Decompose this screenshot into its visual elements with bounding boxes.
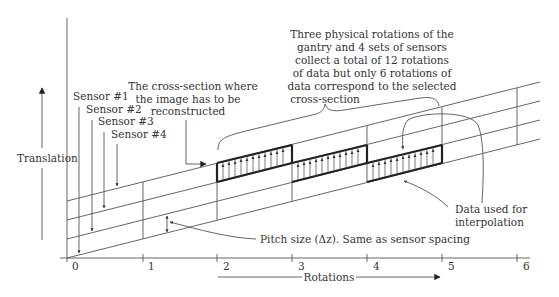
pitch-pointer [170, 222, 256, 239]
tick-label-4: 4 [373, 260, 380, 272]
sensor-3-label: Sensor #3 [98, 115, 154, 127]
interpolation-curved-arrow-bottom [404, 181, 448, 207]
cross-section-arrow [186, 120, 206, 164]
sensor-4-label: Sensor #4 [111, 128, 167, 140]
rotations-note-line-3: collect a total of 12 rotations [295, 54, 449, 66]
cross-section-data [217, 145, 442, 182]
x-axis-label: Rotations [304, 271, 355, 283]
sensor-1-label: Sensor #1 [73, 90, 129, 102]
y-axis-label: Translation [17, 152, 78, 164]
cross-section-text-line-2: the image has to be [136, 93, 241, 105]
pitch-text: Pitch size (Δz). Same as sensor spacing [260, 233, 470, 245]
rotations-note-line-1: Three physical rotations of the [290, 28, 454, 40]
pitch-annotation: Pitch size (Δz). Same as sensor spacing [167, 216, 470, 245]
interpolation-text-line-1: Data used for [455, 203, 528, 215]
interpolation-arrows [222, 147, 435, 180]
rotations-note-line-6: cross-section [290, 93, 360, 105]
rotations-note-line-2: gantry and 4 sets of sensors [297, 41, 447, 53]
cross-section-text-line-1: The cross-section where [128, 80, 258, 92]
rotations-note-line-5: data correspond to the selected [287, 80, 456, 92]
tick-label-0: 0 [72, 260, 79, 272]
tick-label-6: 6 [523, 260, 530, 272]
tick-label-2: 2 [223, 260, 230, 272]
rotations-note-line-4: of data but only 6 rotations of [293, 67, 453, 79]
interpolation-text-line-2: interpolation [455, 216, 524, 228]
sensor-2-label: Sensor #2 [86, 103, 142, 115]
cross-section-text-line-3: reconstructed [151, 105, 226, 117]
tick-label-5: 5 [448, 260, 455, 272]
tick-label-1: 1 [148, 260, 155, 272]
helical-scan-diagram: 0 1 2 3 4 5 6 Rotations Translation [0, 0, 559, 297]
